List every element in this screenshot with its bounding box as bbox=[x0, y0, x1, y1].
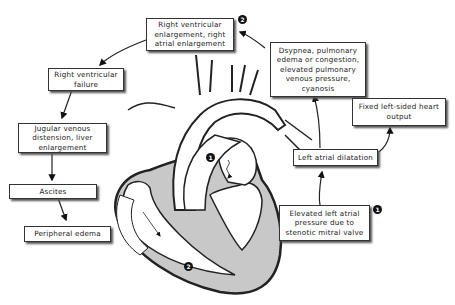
box-ascites: Ascites bbox=[9, 184, 97, 199]
arrow-elevated-to-la bbox=[319, 172, 322, 205]
badge-2-heart: 2 bbox=[184, 262, 193, 271]
box-edema: Peripheral edema bbox=[24, 226, 111, 242]
arrow-failure-to-jugular bbox=[62, 90, 72, 118]
box-fixed-output: Fixed left-sided heart output bbox=[352, 98, 446, 126]
badge-1-heart: 1 bbox=[206, 153, 215, 162]
arrow-ascites-to-edema bbox=[58, 198, 66, 220]
arrow-rv-to-failure bbox=[100, 40, 146, 65]
box-la-dilatation: Left atrial dilatation bbox=[293, 149, 378, 166]
box-dyspnea: Dsypnea, pulmonary edema or congestion, … bbox=[270, 42, 366, 97]
box-jugular: Jugular venous distension, liver enlarge… bbox=[18, 123, 107, 153]
arrow-la-to-dyspnea bbox=[314, 96, 320, 148]
box-rv-failure: Right ventricular failure bbox=[48, 68, 124, 91]
arrow-dyspnea-to-rv bbox=[240, 32, 265, 48]
badge-1-right: 1 bbox=[373, 205, 382, 214]
badge-2-top: 2 bbox=[238, 15, 247, 24]
diagram-canvas: Right ventricular enlargement, right atr… bbox=[0, 0, 455, 305]
box-elevated-la: Elevated left atrial pressure due to ste… bbox=[279, 205, 370, 241]
box-rv-enlargement: Right ventricular enlargement, right atr… bbox=[146, 18, 234, 51]
